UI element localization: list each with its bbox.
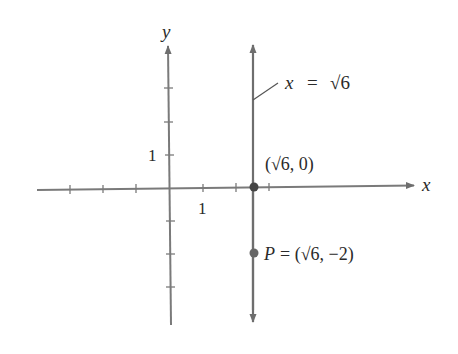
coordinate-plane: y x 1 1 x = √6 (√6, 0) P = (√6, −2) bbox=[0, 0, 458, 354]
point-p bbox=[250, 249, 259, 258]
line-label-x: x bbox=[284, 72, 294, 93]
point-p-name: P bbox=[263, 244, 275, 264]
leader-line bbox=[253, 83, 278, 100]
x-axis bbox=[37, 183, 414, 194]
point-intercept bbox=[250, 183, 259, 192]
y-tick-label-1: 1 bbox=[148, 146, 157, 165]
x-axis-label: x bbox=[421, 174, 431, 195]
intercept-label: (√6, 0) bbox=[265, 154, 314, 175]
x-tick-label-1: 1 bbox=[198, 199, 207, 218]
y-axis-label: y bbox=[160, 21, 171, 42]
y-axis bbox=[164, 46, 175, 325]
line-label-eq: = bbox=[307, 72, 318, 93]
line-label-sqrt6: √6 bbox=[330, 72, 350, 93]
point-p-coords: = (√6, −2) bbox=[280, 244, 354, 265]
